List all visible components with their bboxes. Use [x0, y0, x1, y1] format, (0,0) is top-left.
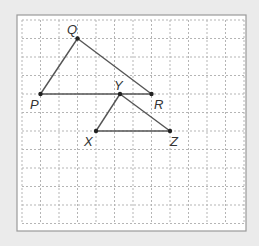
label-x: X — [83, 134, 94, 149]
label-y: Y — [114, 78, 124, 93]
label-z: Z — [169, 134, 179, 149]
point-r — [149, 92, 153, 96]
label-p: P — [30, 97, 39, 112]
point-z — [168, 129, 172, 133]
point-x — [94, 129, 98, 133]
geometry-diagram: QPRYXZ — [0, 0, 259, 246]
point-p — [38, 92, 42, 96]
label-r: R — [154, 97, 163, 112]
label-q: Q — [67, 22, 77, 37]
diagram-frame — [17, 15, 246, 231]
